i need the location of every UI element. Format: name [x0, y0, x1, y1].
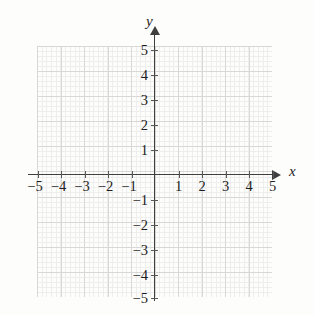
x-tick-label: 5: [269, 179, 276, 194]
y-tick-label: 4: [141, 67, 148, 82]
x-tick-label: 1: [175, 179, 182, 194]
y-tick-label: −3: [133, 243, 148, 258]
x-tick: [38, 171, 39, 178]
x-tick-label: −2: [98, 179, 113, 194]
y-axis-label: y: [146, 14, 153, 29]
x-tick: [226, 171, 227, 178]
y-tick-label: −2: [133, 218, 148, 233]
y-tick: [151, 150, 158, 151]
x-tick: [85, 171, 86, 178]
x-axis-label: x: [289, 164, 296, 179]
coordinate-plane: −5 −4 −3 −2 −1 1 2 3 4 5 5 4 3 2 1 −1 −2…: [0, 0, 314, 315]
x-tick: [108, 171, 109, 178]
x-tick-label: 4: [245, 179, 252, 194]
x-tick: [249, 171, 250, 178]
y-tick: [151, 225, 158, 226]
y-tick: [151, 100, 158, 101]
x-tick-label: −4: [51, 179, 66, 194]
x-axis-line: [28, 174, 274, 175]
y-tick: [151, 298, 158, 299]
x-tick: [273, 171, 274, 178]
y-tick-label: −1: [133, 193, 148, 208]
x-tick-label: −3: [74, 179, 89, 194]
x-tick-label: 2: [198, 179, 205, 194]
y-tick-label: 3: [141, 92, 148, 107]
y-tick: [151, 275, 158, 276]
y-tick-label: 1: [141, 143, 148, 158]
y-tick-label: 2: [141, 118, 148, 133]
y-tick: [151, 50, 158, 51]
y-tick: [151, 75, 158, 76]
y-tick: [151, 250, 158, 251]
y-axis-line: [154, 33, 155, 301]
y-tick: [151, 200, 158, 201]
x-tick: [61, 171, 62, 178]
y-tick: [151, 125, 158, 126]
x-tick: [202, 171, 203, 178]
y-tick-label: −5: [133, 291, 148, 306]
x-tick-label: 3: [222, 179, 229, 194]
y-tick-label: 5: [141, 42, 148, 57]
x-tick-label: −5: [27, 179, 42, 194]
y-tick-label: −4: [133, 268, 148, 283]
x-tick: [179, 171, 180, 178]
x-tick: [132, 171, 133, 178]
